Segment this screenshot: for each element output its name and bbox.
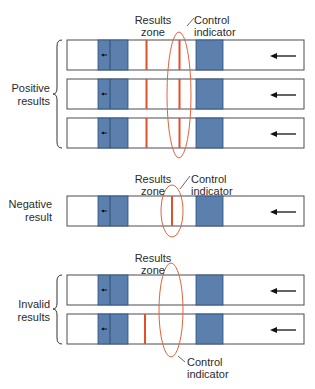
control-line [179,118,181,148]
results-zone-label: Resultszone [128,252,178,276]
control-indicator-label: Controlindicator [194,14,244,38]
control-indicator-label: Controlindicator [191,173,241,197]
results-zone-label: Resultszone [128,14,178,38]
results-zone-label: Resultszone [128,173,178,197]
control-line [171,196,173,226]
test-line [144,314,146,344]
invalid-results-label: Invalidresults [0,298,50,324]
control-pointer [178,356,185,362]
strip-invalid-2 [67,314,304,344]
positive-results-label: Positiveresults [0,82,50,108]
strip-negative [67,196,304,226]
strip-positive-1 [67,40,304,70]
test-line [146,118,148,148]
strip-invalid-1 [67,275,304,305]
control-line [179,40,181,70]
test-line [146,40,148,70]
strip-positive-3 [67,118,304,148]
control-indicator-label: Controlindicator [187,356,237,380]
negative-result-label: Negativeresult [0,198,52,224]
control-pointer [180,176,190,189]
invalid-brace [53,275,62,344]
strip-positive-2 [67,79,304,109]
control-pointer [187,18,194,26]
control-line [179,79,181,109]
test-line [146,79,148,109]
positive-brace [53,40,62,148]
